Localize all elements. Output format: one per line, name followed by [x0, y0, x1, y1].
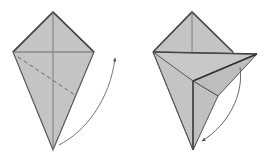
step-2-folded — [153, 12, 257, 150]
origami-diagram — [0, 0, 276, 159]
diagram-canvas — [0, 0, 276, 159]
step-1-kite — [13, 12, 115, 150]
